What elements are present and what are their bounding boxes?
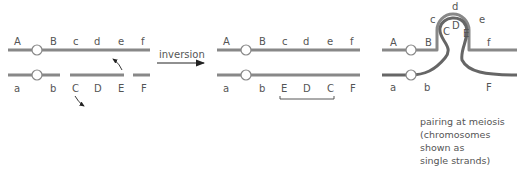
rotation-arrow-up-icon [113,59,122,70]
right-panel: A B c d e f a b C D E F pairing at meios… [382,1,517,166]
gene-label: d [452,1,458,12]
bottom-centromere [406,70,416,80]
gene-label: B [50,36,57,47]
caption-line: pairing at meiosis [420,116,505,127]
gene-label: b [259,83,265,94]
gene-label: f [141,36,145,47]
caption-line: (chromosomes [420,129,490,140]
gene-label: c [430,14,436,25]
gene-label: F [350,83,356,94]
gene-label: b [424,82,430,93]
inverted-segment-bracket [280,96,334,99]
gene-label: d [94,36,100,47]
gene-label: e [118,36,124,47]
gene-label: C [443,26,450,37]
rotation-arrow-down-icon [75,96,84,106]
gene-label: e [479,14,485,25]
gene-label: B [425,37,432,48]
gene-label: b [50,83,56,94]
top-centromere [32,45,42,55]
bottom-centromere [241,70,251,80]
gene-label: D [452,20,460,31]
gene-label: F [141,83,147,94]
gene-label: A [14,36,21,47]
gene-label: E [463,28,469,39]
left-panel: A B c d e f a b C D E F [8,36,150,106]
gene-label: E [118,83,124,94]
gene-label: a [390,82,396,93]
caption-line: single strands) [420,155,490,166]
gene-label: D [303,83,311,94]
gene-label: a [14,83,20,94]
inversion-arrow: inversion [157,49,205,63]
gene-label: E [281,83,287,94]
top-centromere [406,45,416,55]
middle-panel: A B c d e f a b E D C F [217,36,360,99]
gene-label: f [350,36,354,47]
gene-label: A [223,36,230,47]
gene-label: C [72,83,79,94]
gene-label: f [487,37,491,48]
inversion-diagram: A B c d e f a b C D E F inversion A B c … [0,0,519,170]
gene-label: C [327,83,334,94]
gene-label: D [94,83,102,94]
gene-label: a [223,83,229,94]
gene-label: c [282,36,288,47]
gene-label: d [303,36,309,47]
bottom-centromere [32,70,42,80]
gene-label: F [486,82,492,93]
gene-label: B [259,36,266,47]
gene-label: A [390,37,397,48]
gene-label: e [327,36,333,47]
top-centromere [241,45,251,55]
inversion-label: inversion [159,49,205,60]
caption-line: shown as [420,142,464,153]
gene-label: c [73,36,79,47]
